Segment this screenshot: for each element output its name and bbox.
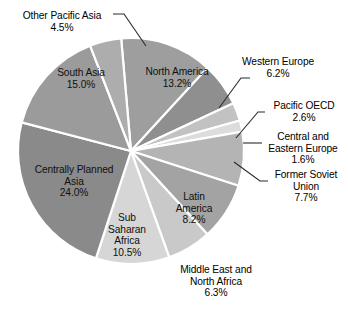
slice-label-centrally-planned-asia-name-1: Centrally Planned [35,164,114,175]
slice-label-central-eastern-europe-pct: 1.6% [258,154,348,166]
slice-label-sub-saharan-africa: Sub Saharan Africa 10.5% [96,212,158,258]
slice-label-centrally-planned-asia-name-2: Asia [19,176,129,188]
slice-label-western-europe-name: Western Europe [242,56,314,67]
slice-label-former-soviet-union-name-1: Former Soviet [275,169,338,180]
slice-label-south-asia-name: South Asia [57,67,105,78]
slice-label-centrally-planned-asia-pct: 24.0% [19,187,129,199]
slice-label-other-pacific-asia: Other Pacific Asia 4.5% [8,10,116,33]
slice-label-pacific-oecd-name: Pacific OECD [273,100,334,111]
slice-label-middle-east-north-africa-name-1: Middle East and [180,264,252,275]
slice-label-western-europe-pct: 6.2% [226,68,330,80]
slice-label-south-asia: South Asia 15.0% [36,67,126,90]
slice-label-former-soviet-union-name-2: Union [264,181,348,193]
slice-label-sub-saharan-africa-name-3: Africa [96,235,158,247]
slice-label-other-pacific-asia-pct: 4.5% [8,22,116,34]
slice-label-middle-east-north-africa-pct: 6.3% [160,287,272,299]
slice-label-latin-america: Latin America 8.2% [164,191,224,226]
slice-label-central-eastern-europe-name-2: Eastern Europe [258,143,348,155]
slice-label-pacific-oecd: Pacific OECD 2.6% [262,100,346,123]
slice-label-north-america-pct: 13.2% [135,78,219,90]
pie-chart: South Asia 15.0% North America 13.2% Cen… [0,0,348,312]
slice-label-south-asia-pct: 15.0% [36,79,126,91]
slice-label-former-soviet-union-pct: 7.7% [264,192,348,204]
slice-label-middle-east-north-africa: Middle East and North Africa 6.3% [160,264,272,299]
slice-label-other-pacific-asia-name: Other Pacific Asia [23,10,102,21]
slice-label-latin-america-pct: 8.2% [164,214,224,226]
slice-label-north-america-name: North America [145,66,208,77]
slice-label-central-eastern-europe: Central and Eastern Europe 1.6% [258,131,348,166]
slice-label-north-america: North America 13.2% [135,66,219,89]
slice-label-sub-saharan-africa-pct: 10.5% [96,247,158,259]
slice-label-centrally-planned-asia: Centrally Planned Asia 24.0% [19,164,129,199]
slice-label-latin-america-name-1: Latin [183,191,205,202]
slice-label-latin-america-name-2: America [164,203,224,215]
slice-label-sub-saharan-africa-name-1: Sub [118,212,136,223]
slice-label-former-soviet-union: Former Soviet Union 7.7% [264,169,348,204]
slice-label-western-europe: Western Europe 6.2% [226,56,330,79]
slice-label-sub-saharan-africa-name-2: Saharan [96,224,158,236]
slice-label-middle-east-north-africa-name-2: North Africa [160,276,272,288]
slice-label-pacific-oecd-pct: 2.6% [262,112,346,124]
slice-label-central-eastern-europe-name-1: Central and [277,131,329,142]
